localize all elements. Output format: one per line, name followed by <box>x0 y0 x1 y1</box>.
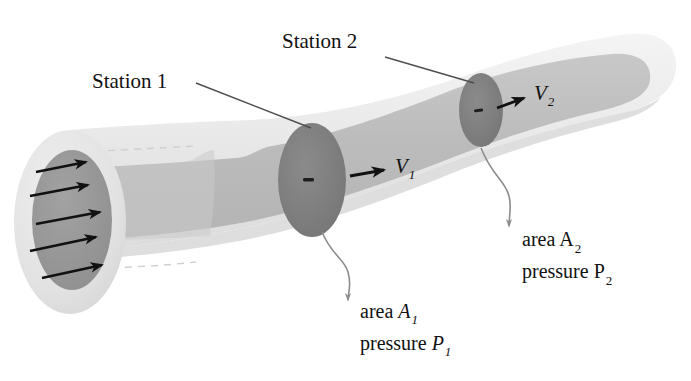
station1-pressure-subscript: 1 <box>445 344 452 359</box>
station2-area-label: area A2 <box>522 228 581 256</box>
station1-center-tick <box>303 178 314 181</box>
station1-area-prefix: area <box>360 300 398 322</box>
station1-pressure-prefix: pressure <box>360 332 432 355</box>
station2-pressure-prefix: pressure <box>522 260 594 283</box>
velocity2-symbol: V <box>534 81 549 105</box>
station1-area-label: area A1 <box>360 300 418 327</box>
station1-pressure-symbol: P <box>431 332 444 354</box>
velocity1-subscript: 1 <box>409 167 416 182</box>
station1-pressure-label: pressure P1 <box>360 332 451 359</box>
diagram-canvas: Station 1 Station 2 V1 V2 area A1 pressu… <box>0 0 691 381</box>
station1-callout-leader <box>322 232 350 300</box>
station2-area-prefix: area <box>522 228 559 250</box>
station1-cross-section <box>278 123 346 237</box>
station2-pressure-label: pressure P2 <box>522 260 612 288</box>
station2-pressure-symbol: P <box>594 260 605 282</box>
station2-area-symbol: A <box>559 228 574 250</box>
pipe-inlet-cap <box>14 130 126 314</box>
station1-label: Station 1 <box>92 69 167 93</box>
pipe-flow-diagram: Station 1 Station 2 V1 V2 area A1 pressu… <box>0 0 691 381</box>
velocity2-subscript: 2 <box>548 94 555 109</box>
station2-area-subscript: 2 <box>575 241 582 256</box>
velocity1-symbol: V <box>395 154 410 178</box>
station2-cross-section <box>459 73 503 147</box>
station2-pressure-subscript: 2 <box>606 273 613 288</box>
station2-leader-line <box>385 57 474 83</box>
station2-label: Station 2 <box>282 29 357 53</box>
station1-area-subscript: 1 <box>412 312 419 327</box>
station1-area-symbol: A <box>396 300 411 322</box>
